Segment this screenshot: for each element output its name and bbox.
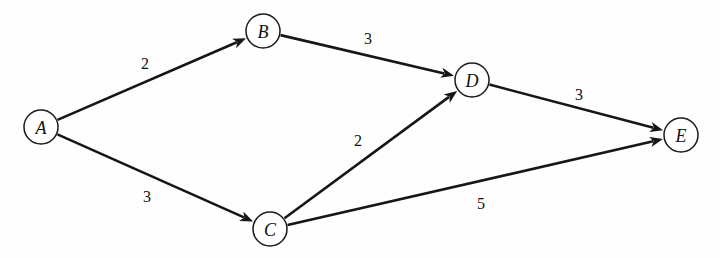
- graph-node-c[interactable]: C: [253, 212, 287, 246]
- edge-line-d-e: [489, 85, 653, 128]
- edge-weight-a-c: 3: [143, 188, 151, 205]
- node-label-b: B: [258, 22, 269, 42]
- edge-weight-d-e: 3: [575, 86, 583, 103]
- nodes-layer: ABCDE: [24, 14, 698, 246]
- node-label-e: E: [675, 126, 687, 146]
- edge-line-c-d: [284, 97, 449, 218]
- edge-weight-a-b: 2: [141, 55, 149, 72]
- edge-weight-b-d: 3: [364, 30, 372, 47]
- edge-line-b-d: [281, 35, 445, 73]
- edge-weight-c-d: 2: [354, 132, 362, 149]
- edge-weights-layer: 233235: [141, 30, 583, 212]
- graph-node-a[interactable]: A: [24, 110, 58, 144]
- node-label-a: A: [35, 118, 48, 138]
- edge-weight-c-e: 5: [477, 195, 485, 212]
- graph-node-e[interactable]: E: [664, 118, 698, 152]
- arrowhead-icon-c-d: [444, 91, 458, 103]
- edge-line-a-c: [57, 134, 244, 217]
- node-label-d: D: [465, 71, 479, 91]
- graph-svg: ABCDE 233235: [0, 0, 720, 258]
- graph-node-d[interactable]: D: [455, 63, 489, 97]
- edge-line-c-e: [288, 141, 654, 225]
- graph-diagram-canvas: ABCDE 233235: [0, 0, 720, 258]
- graph-node-b[interactable]: B: [246, 14, 280, 48]
- node-label-c: C: [264, 220, 277, 240]
